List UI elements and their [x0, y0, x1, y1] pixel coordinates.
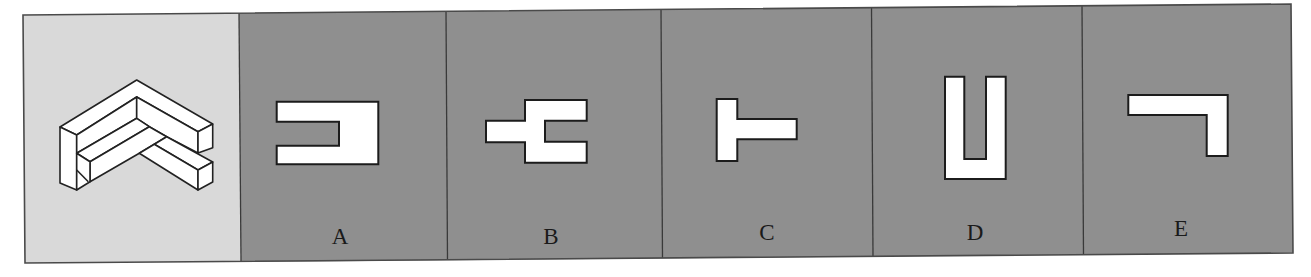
puzzle-canvas: A B C D E [0, 0, 1311, 277]
option-b-label: B [543, 224, 558, 249]
option-a-label: A [332, 224, 349, 249]
option-c-label: C [759, 220, 774, 245]
option-d-label: D [967, 220, 984, 245]
iso-left-outer-face [60, 127, 77, 190]
option-e-label: E [1174, 216, 1188, 241]
puzzle-strip: A B C D E [0, 0, 1311, 277]
